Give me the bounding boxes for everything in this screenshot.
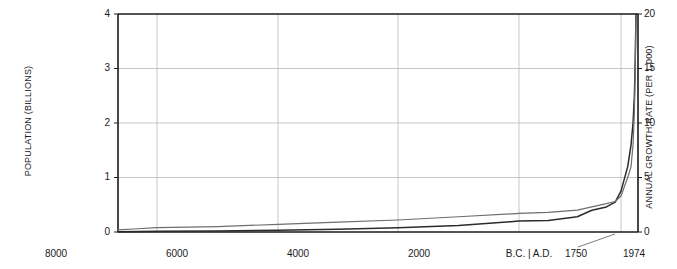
gridlines — [118, 14, 638, 232]
plot-area — [0, 0, 677, 269]
series-line-annual-growth-rate — [118, 19, 636, 229]
population-growth-chart: POPULATION (BILLIONS) ANNUAL GROWTH RATE… — [0, 0, 677, 269]
leader-line-1750-icon — [578, 234, 615, 247]
annotation-layer — [578, 234, 615, 247]
